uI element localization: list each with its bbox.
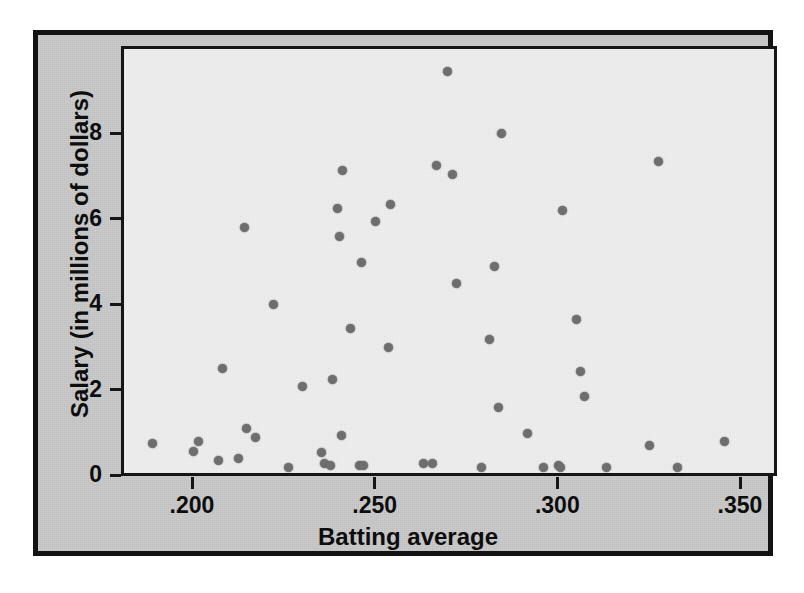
scatter-point [673,463,682,472]
scatter-point [485,335,494,344]
x-axis-label: Batting average [38,523,778,551]
figure-frame: Salary (in millions of dollars) 02468 .2… [33,30,773,556]
scatter-point [580,392,589,401]
scatter-point [572,315,581,324]
x-axis-tick-label: .200 [147,494,237,517]
scatter-point [386,200,395,209]
scatter-point [654,157,663,166]
y-axis-tick [110,303,121,306]
scatter-point [432,161,441,170]
scatter-point [448,170,457,179]
scatter-point [556,463,565,472]
y-axis-tick [110,217,121,220]
scatter-point [298,382,307,391]
scatter-point [371,217,380,226]
x-axis-tick [739,477,742,489]
scatter-point [338,166,347,175]
scatter-point [326,461,335,470]
scatter-point [242,424,251,433]
x-axis-tick [191,477,194,489]
scatter-point [428,459,437,468]
y-axis-tick [110,474,121,477]
scatter-point [194,437,203,446]
scatter-point [384,343,393,352]
scatter-point [602,463,611,472]
scatter-point [443,67,452,76]
scatter-point [419,459,428,468]
scatter-point [539,463,548,472]
scatter-point [645,441,654,450]
scatter-point [337,431,346,440]
x-axis-tick-label: .300 [512,494,602,517]
scatter-point [357,258,366,267]
scatter-point [346,324,355,333]
scatter-point [490,262,499,271]
scatter-point [497,129,506,138]
scatter-point [148,439,157,448]
scatter-point [269,300,278,309]
y-axis-tick-label: 2 [62,378,102,401]
scatter-point [284,463,293,472]
scatter-point [333,204,342,213]
plot-area [121,46,777,476]
scatter-point [523,429,532,438]
y-axis-tick-label: 0 [62,463,102,486]
y-axis-tick-label: 8 [62,121,102,144]
scatter-point [452,279,461,288]
scatter-point [328,375,337,384]
scatter-point [317,448,326,457]
scatter-point [234,454,243,463]
y-axis-tick-label: 6 [62,207,102,230]
scatter-point [494,403,503,412]
scatter-point [189,447,198,456]
scatter-point [720,437,729,446]
scatter-point [240,223,249,232]
scatter-point [218,364,227,373]
scatter-point [576,367,585,376]
x-axis-tick [556,477,559,489]
scatter-point [359,461,368,470]
y-axis-tick [110,388,121,391]
y-axis-tick-label: 4 [62,292,102,315]
x-axis-tick [373,477,376,489]
scatter-point [477,463,486,472]
scatter-point [251,433,260,442]
x-axis-tick-label: .350 [695,494,785,517]
scatter-point [335,232,344,241]
scatter-point [558,206,567,215]
y-axis-tick [110,132,121,135]
scatter-point [214,456,223,465]
x-axis-tick-label: .250 [330,494,420,517]
